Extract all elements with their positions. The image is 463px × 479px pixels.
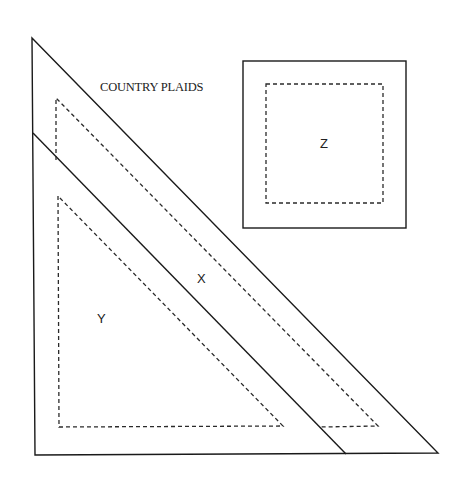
xy-dividing-line xyxy=(33,133,346,454)
piece-z-label: Z xyxy=(320,136,328,151)
piece-y-label: Y xyxy=(97,311,106,326)
piece-x-seam-line xyxy=(56,98,378,427)
piece-y-seam-line xyxy=(58,196,283,427)
piece-x-label: X xyxy=(197,271,206,286)
quilt-pattern-diagram: COUNTRY PLAIDS X Y Z xyxy=(0,0,463,479)
triangle-outer-cut-line xyxy=(32,38,438,455)
pattern-title: COUNTRY PLAIDS xyxy=(100,80,204,94)
